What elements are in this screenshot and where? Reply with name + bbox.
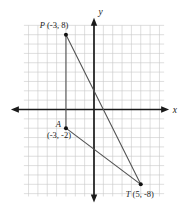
point-label-P: P (-3, 8) bbox=[39, 20, 69, 30]
point-P bbox=[64, 33, 68, 37]
coordinate-plane-figure: xyP (-3, 8)A(-3, -2)T (5, -8) bbox=[0, 0, 187, 219]
point-T bbox=[139, 182, 143, 186]
x-axis-label: x bbox=[172, 105, 178, 115]
point-label-A: A bbox=[55, 119, 62, 129]
point-coords-label-A: (-3, -2) bbox=[47, 130, 71, 140]
math-figure-page: xyP (-3, 8)A(-3, -2)T (5, -8) bbox=[0, 0, 187, 219]
point-label-T: T (5, -8) bbox=[126, 189, 154, 199]
y-axis-label: y bbox=[98, 7, 104, 17]
